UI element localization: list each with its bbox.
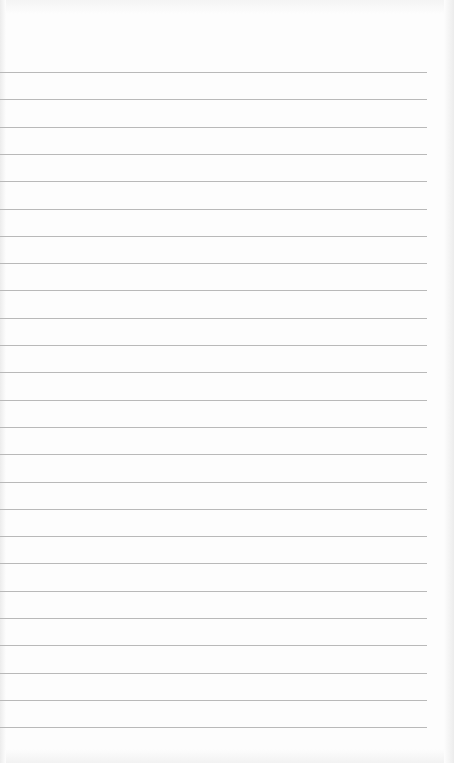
ruled-line: [0, 673, 427, 674]
ruled-line: [0, 563, 427, 564]
ruled-line: [0, 236, 427, 237]
ruled-line: [0, 209, 427, 210]
ruled-line: [0, 454, 427, 455]
paper-left-edge: [0, 0, 6, 763]
ruled-line: [0, 345, 427, 346]
ruled-line: [0, 645, 427, 646]
paper-right-edge: [444, 0, 454, 763]
ruled-line: [0, 400, 427, 401]
ruled-line: [0, 536, 427, 537]
ruled-line: [0, 509, 427, 510]
ruled-line: [0, 427, 427, 428]
lined-paper: [0, 0, 454, 763]
ruled-line: [0, 318, 427, 319]
ruled-line: [0, 181, 427, 182]
ruled-line: [0, 618, 427, 619]
ruled-line: [0, 290, 427, 291]
ruled-line: [0, 700, 427, 701]
ruled-line: [0, 591, 427, 592]
ruled-line: [0, 263, 427, 264]
ruled-line: [0, 727, 427, 728]
ruled-line: [0, 154, 427, 155]
ruled-line: [0, 372, 427, 373]
ruled-line: [0, 99, 427, 100]
ruled-line: [0, 127, 427, 128]
ruled-line: [0, 72, 427, 73]
ruled-line: [0, 482, 427, 483]
